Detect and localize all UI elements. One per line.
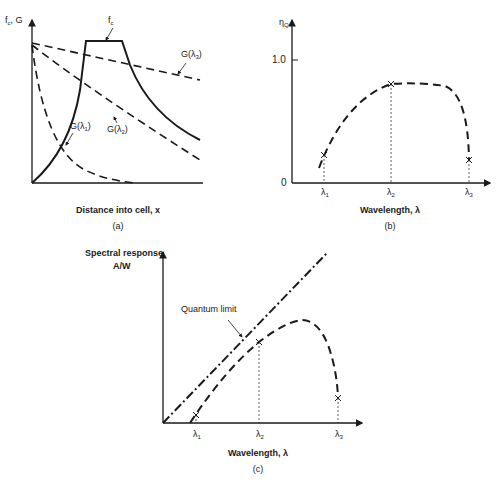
chart-b-caption: (b)	[385, 222, 396, 231]
quantum-limit-label: Quantum limit	[181, 305, 237, 314]
chart-c-x-tick-lambda2: λ2	[256, 430, 264, 440]
chart-a-caption: (a)	[113, 222, 124, 231]
chart-b-tick-0-label: 0	[281, 178, 287, 188]
eta-q-curve	[319, 83, 469, 168]
figure-canvas	[0, 0, 501, 485]
fc-curve	[32, 41, 200, 183]
chart-b-x-tick-lambda1: λ1	[321, 188, 329, 198]
g2-leader	[114, 117, 117, 123]
chart-c	[163, 252, 362, 423]
fc-label: fc	[108, 16, 114, 26]
marker-c-x-lambda1	[193, 412, 199, 418]
chart-b-x-tick-lambda2: λ2	[387, 188, 395, 198]
marker-c-x-lambda3	[335, 395, 341, 401]
chart-c-y-label-line2: A/W	[113, 262, 131, 271]
chart-c-y-label-line1: Spectral response	[85, 249, 163, 258]
chart-b-y-label: ηQ	[279, 18, 289, 28]
chart-c-x-tick-lambda1: λ1	[193, 430, 201, 440]
g-lambda2-curve	[32, 45, 200, 160]
g-lambda2-label: G(λ2)	[107, 125, 128, 135]
chart-c-x-label: Wavelength, λ	[228, 449, 288, 458]
g-lambda3-curve	[32, 43, 200, 80]
g3-leader	[178, 63, 186, 74]
quantum-limit-leader	[228, 320, 242, 337]
chart-a	[32, 20, 203, 183]
chart-b-x-tick-lambda3: λ3	[465, 188, 473, 198]
chart-b-x-label: Wavelength, λ	[360, 206, 420, 215]
fc-leader	[106, 28, 113, 40]
chart-b	[292, 20, 490, 183]
g-lambda3-label: G(λ3)	[181, 50, 202, 60]
chart-c-caption: (c)	[253, 465, 264, 474]
marker-c-x-lambda2	[256, 339, 262, 345]
quantum-limit-line	[163, 253, 327, 423]
marker-x-lambda1	[321, 152, 327, 158]
marker-x-lambda2	[388, 81, 394, 87]
chart-a-x-label: Distance into cell, x	[76, 206, 160, 215]
chart-b-tick-1-label: 1.0	[272, 55, 286, 65]
chart-a-y-label: fc, G	[5, 16, 23, 26]
chart-c-x-tick-lambda3: λ3	[335, 430, 343, 440]
g-lambda1-label: G(λ1)	[70, 122, 91, 132]
